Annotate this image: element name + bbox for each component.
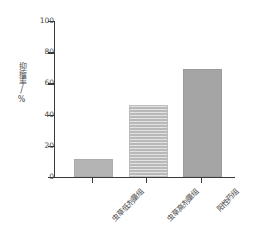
bar-0 [74, 159, 113, 177]
x-tick-mark-1 [146, 177, 147, 183]
x-axis-line [54, 177, 235, 178]
y-axis-title: 抑瘤率/% [14, 62, 25, 104]
bar-1 [129, 105, 168, 177]
x-tick-label-1: 虫草高剂量组 [163, 186, 200, 223]
x-tick-label-0: 虫草低剂量组 [108, 186, 145, 223]
bar-2 [183, 69, 222, 177]
x-tick-label-2: 阳性药组 [213, 186, 241, 214]
plot-area [54, 21, 235, 177]
x-tick-mark-0 [92, 177, 93, 183]
x-tick-mark-2 [201, 177, 202, 183]
bar-chart: 抑瘤率/% 100 80 60 40 20 0 虫草低剂量组 虫草高剂量组 阳性… [0, 0, 255, 244]
